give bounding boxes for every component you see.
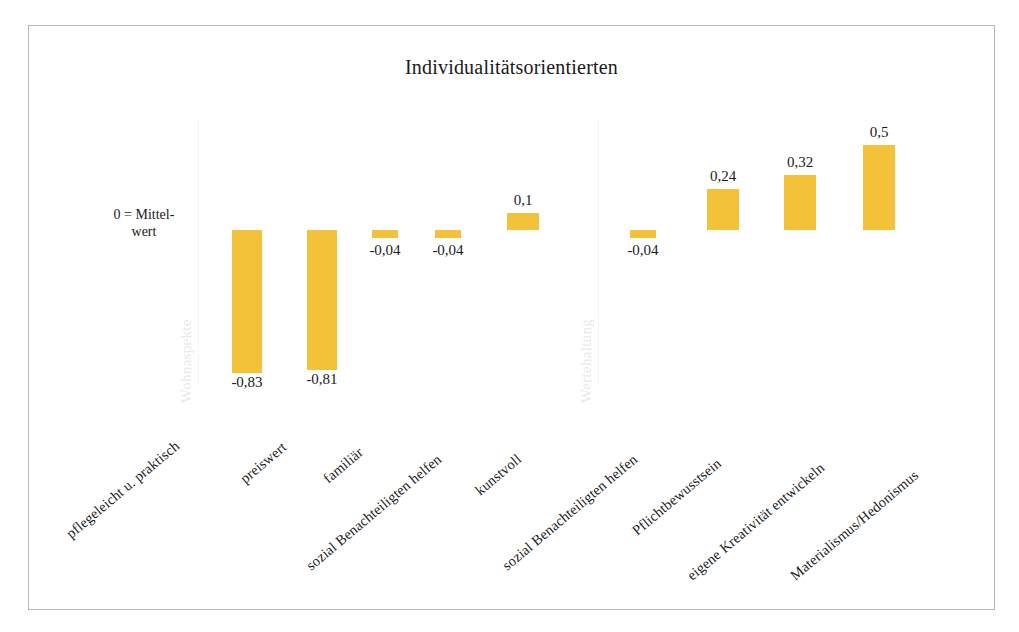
bar-familiaer[interactable] xyxy=(372,230,398,238)
bar-pflegeleicht-u-praktisch[interactable] xyxy=(232,230,262,373)
bar-materialismus-hedonismus[interactable] xyxy=(863,145,895,230)
bar-preiswert[interactable] xyxy=(307,230,337,370)
bar-value-eigene-kreativitaet-entwickeln: 0,32 xyxy=(765,154,835,171)
bar-sozial-benachteiligten-helfen-2[interactable] xyxy=(630,230,656,238)
category-label-pflichtbewusstsein: Pflichtbewusstsein xyxy=(629,455,725,539)
bar-value-materialismus-hedonismus: 0,5 xyxy=(844,124,914,141)
group-divider-wertehaltung xyxy=(598,121,600,386)
category-label-kunstvoll: kunstvoll xyxy=(472,451,525,499)
category-label-pflegeleicht-u-praktisch: pflegeleicht u. praktisch xyxy=(63,438,183,542)
chart-figure-frame: Individualitätsorientierten 0 = Mittel- … xyxy=(28,25,995,610)
category-label-preiswert: preiswert xyxy=(237,439,290,487)
bar-value-familiaer: -0,04 xyxy=(350,242,420,259)
group-label-wohnaspekte: Wohnaspekte xyxy=(178,319,195,403)
baseline-annotation: 0 = Mittel- wert xyxy=(84,206,204,240)
plot-area: 0 = Mittel- wert Wohnaspekte Wertehaltun… xyxy=(29,26,996,611)
bar-eigene-kreativitaet-entwickeln[interactable] xyxy=(784,175,816,230)
bar-value-kunstvoll: 0,1 xyxy=(488,192,558,209)
bar-sozial-benachteiligten-helfen-1[interactable] xyxy=(435,230,461,238)
bar-value-preiswert: -0,81 xyxy=(287,371,357,388)
baseline-annotation-line1: 0 = Mittel- xyxy=(114,207,175,222)
group-label-wertehaltung: Wertehaltung xyxy=(578,319,595,403)
bar-value-pflegeleicht-u-praktisch: -0,83 xyxy=(212,374,282,391)
category-label-familiaer: familiär xyxy=(320,444,367,487)
baseline-annotation-line2: wert xyxy=(84,223,204,240)
bar-value-pflichtbewusstsein: 0,24 xyxy=(688,168,758,185)
bar-kunstvoll[interactable] xyxy=(507,213,539,230)
bar-pflichtbewusstsein[interactable] xyxy=(707,189,739,230)
group-divider-wohnaspekte xyxy=(198,121,200,386)
bar-value-sozial-benachteiligten-helfen-2: -0,04 xyxy=(608,242,678,259)
category-label-sozial-benachteiligten-helfen-2: sozial Benachteiligten helfen xyxy=(499,451,641,574)
bar-value-sozial-benachteiligten-helfen-1: -0,04 xyxy=(413,242,483,259)
